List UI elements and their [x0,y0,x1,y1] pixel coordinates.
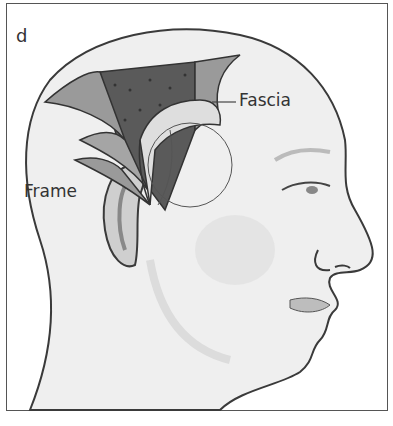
panel-letter: d [16,27,27,45]
head-profile-illustration [0,0,393,426]
frame-label: Frame [24,183,77,200]
fascia-label: Fascia [239,92,291,109]
